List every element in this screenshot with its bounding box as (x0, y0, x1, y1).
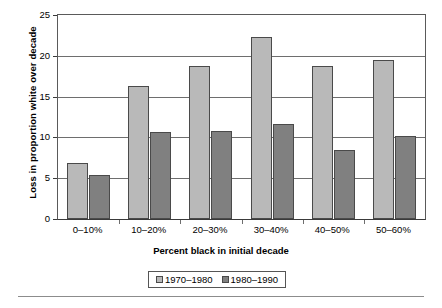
bar (128, 86, 149, 219)
legend-swatch-icon (156, 276, 163, 283)
y-axis-tick-mark (53, 137, 57, 138)
bar (189, 66, 210, 219)
y-axis-tick-mark (53, 56, 57, 57)
y-axis-title: Loss in proportion white over decade (27, 8, 38, 218)
x-axis-tick-mark (242, 220, 243, 224)
x-axis-tick-labels: 0–10%10–20%20–30%30–40%40–50%50–60% (57, 224, 426, 238)
y-axis-tick-label: 20 (14, 51, 50, 61)
y-axis-tick-mark (53, 219, 57, 220)
x-axis-tick-label: 50–60% (363, 224, 424, 235)
chart-legend: 1970–19801980–1990 (148, 271, 286, 288)
bar (89, 175, 110, 219)
y-axis-tick-label: 25 (14, 10, 50, 20)
x-axis-tick-label: 0–10% (57, 224, 118, 235)
bar (150, 132, 171, 219)
bar (334, 150, 355, 219)
bar (395, 136, 416, 219)
legend-label: 1980–1990 (231, 275, 279, 285)
x-axis-tick-mark (364, 220, 365, 224)
y-axis-tick-label: 15 (14, 92, 50, 102)
bar (67, 163, 88, 219)
y-axis-tick-label: 0 (14, 214, 50, 224)
legend-item: 1980–1990 (222, 275, 279, 285)
x-axis-tick-label: 30–40% (241, 224, 302, 235)
y-axis-tick-label: 10 (14, 132, 50, 142)
x-axis-tick-label: 10–20% (118, 224, 179, 235)
x-axis-tick-label: 20–30% (179, 224, 240, 235)
x-axis-tick-mark (180, 220, 181, 224)
y-axis-tick-mark (53, 15, 57, 16)
y-axis-tick-mark (53, 97, 57, 98)
x-axis-tick-mark (303, 220, 304, 224)
bars-layer (58, 15, 425, 219)
x-axis-title: Percent black in initial decade (0, 245, 442, 256)
bar (211, 131, 232, 219)
y-axis-tick-mark (53, 178, 57, 179)
footer-rule (18, 296, 424, 297)
legend-label: 1970–1980 (165, 275, 213, 285)
bar (273, 124, 294, 219)
bar (312, 66, 333, 219)
legend-swatch-icon (222, 276, 229, 283)
y-axis-tick-label: 5 (14, 173, 50, 183)
x-axis-tick-label: 40–50% (302, 224, 363, 235)
bar (373, 60, 394, 219)
chart-figure: Loss in proportion white over decade 0–1… (0, 0, 442, 308)
x-axis-tick-mark (119, 220, 120, 224)
legend-item: 1970–1980 (156, 275, 213, 285)
bar (251, 37, 272, 219)
